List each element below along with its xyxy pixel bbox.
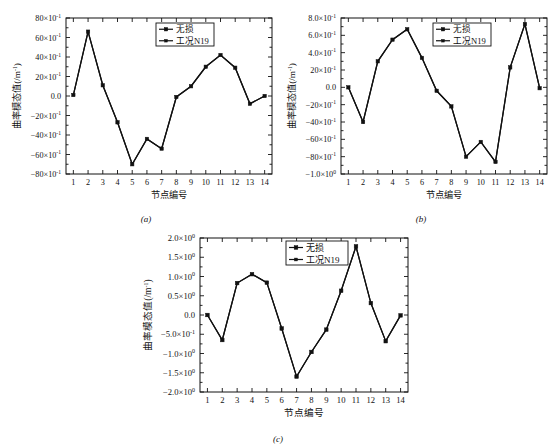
x-tick-label: 14	[536, 178, 544, 187]
x-tick-label: 6	[420, 178, 424, 187]
y-tick-label: 2.0×100	[168, 233, 195, 243]
data-point	[219, 53, 222, 56]
x-tick-label: 8	[449, 178, 453, 187]
y-tick-label: −1.5×100	[163, 368, 195, 378]
x-tick-label: 4	[250, 395, 255, 405]
x-tick-label: 7	[160, 178, 164, 187]
data-point	[384, 339, 388, 343]
data-point	[206, 313, 210, 317]
data-point	[145, 137, 148, 140]
data-point	[86, 30, 89, 33]
subplot-b: 8.0×10-16.0×10-14.0×10-120×10-10.0−20×10…	[283, 6, 555, 224]
legend-sample-marker	[442, 39, 445, 42]
y-tick-label: 0.0	[326, 83, 336, 92]
data-point	[324, 328, 328, 332]
y-tick-label: 6.0×10-1	[308, 30, 336, 40]
plot-c: 2.0×1001.5×1001.0×1000.5×1000.0−5.0×10-1…	[138, 228, 418, 430]
y-tick-label: 0.0	[51, 92, 61, 101]
x-tick-label: 11	[352, 395, 360, 405]
y-tick-label: 60×10-1	[35, 32, 61, 42]
data-point	[189, 85, 192, 88]
y-tick-label: −40×10-1	[306, 117, 336, 127]
x-tick-label: 8	[174, 178, 178, 187]
y-tick-label: −60×10-1	[31, 149, 61, 159]
data-point	[310, 350, 314, 354]
legend-label: 无损	[176, 23, 194, 34]
y-tick-label: 1.5×100	[168, 252, 195, 262]
x-axis-title: 节点编号	[151, 189, 187, 200]
legend-sample-marker	[165, 39, 168, 42]
series-line-undamaged	[73, 32, 264, 165]
x-tick-label: 1	[205, 395, 209, 405]
data-point	[420, 56, 423, 59]
y-tick-label: 8.0×10-1	[308, 13, 336, 23]
x-tick-label: 12	[231, 178, 239, 187]
data-point	[376, 60, 379, 63]
legend-sample-marker	[164, 28, 167, 31]
data-point	[354, 245, 358, 249]
data-point	[175, 95, 178, 98]
series-line-undamaged	[207, 246, 400, 376]
data-point	[250, 272, 254, 276]
x-tick-label: 14	[261, 178, 269, 187]
x-tick-label: 2	[86, 178, 90, 187]
x-tick-label: 1	[346, 178, 350, 187]
x-tick-label: 13	[246, 178, 254, 187]
x-tick-label: 4	[390, 178, 394, 187]
series-line-condition-n19	[73, 32, 264, 165]
x-axis-title: 节点编号	[284, 407, 324, 418]
legend-sample-marker	[441, 28, 444, 31]
x-tick-label: 9	[464, 178, 468, 187]
data-point	[234, 66, 237, 69]
subplot-c-caption: (c)	[138, 434, 418, 444]
data-point	[72, 93, 75, 96]
subplot-a-caption: (a)	[10, 214, 282, 224]
data-point	[391, 38, 394, 41]
subplot-b-caption: (b)	[285, 214, 555, 224]
y-tick-label: −80×10-1	[31, 169, 61, 179]
y-tick-label: −20×10-1	[31, 110, 61, 120]
data-point	[248, 102, 251, 105]
data-point	[220, 338, 224, 342]
x-tick-label: 12	[506, 178, 514, 187]
subplot-c: 2.0×1001.5×1001.0×1000.5×1000.0−5.0×10-1…	[138, 228, 418, 444]
x-tick-label: 3	[101, 178, 105, 187]
y-tick-label: −1.0×100	[163, 348, 195, 358]
legend-label: 工况N19	[176, 36, 209, 46]
y-axis-title: 曲率模态值(/m-1)	[11, 63, 22, 129]
y-tick-label: 1.0×100	[168, 271, 195, 281]
y-tick-label: 0.0	[184, 310, 195, 320]
series-line-condition-n19	[207, 246, 400, 376]
x-tick-label: 5	[130, 178, 134, 187]
data-point	[339, 289, 343, 293]
x-tick-label: 6	[145, 178, 149, 187]
data-point	[523, 22, 526, 25]
x-tick-label: 1	[71, 178, 75, 187]
data-point	[265, 281, 269, 285]
data-point	[131, 163, 134, 166]
data-point	[361, 120, 364, 123]
x-tick-label: 9	[324, 395, 328, 405]
x-tick-label: 4	[115, 178, 119, 187]
data-point	[479, 140, 482, 143]
x-axis-title: 节点编号	[426, 189, 462, 200]
legend-label: 工况N19	[306, 255, 340, 265]
y-axis-title: 曲率模态值(/m-1)	[142, 279, 154, 351]
x-tick-label: 8	[309, 395, 313, 405]
x-tick-label: 3	[376, 178, 380, 187]
x-tick-label: 7	[435, 178, 439, 187]
data-point	[399, 314, 403, 318]
x-tick-label: 2	[220, 395, 224, 405]
data-point	[435, 89, 438, 92]
x-tick-label: 11	[217, 178, 225, 187]
data-point	[280, 327, 284, 331]
y-tick-label: 4.0×10-1	[308, 47, 336, 57]
plot-a: 80×10-160×10-140×10-120×10-10.0−20×10-1−…	[8, 6, 280, 212]
x-tick-label: 2	[361, 178, 365, 187]
data-point	[369, 301, 373, 305]
y-tick-label: −20×10-1	[306, 99, 336, 109]
x-tick-label: 11	[492, 178, 500, 187]
x-tick-label: 13	[521, 178, 529, 187]
data-point	[464, 155, 467, 158]
data-point	[509, 66, 512, 69]
